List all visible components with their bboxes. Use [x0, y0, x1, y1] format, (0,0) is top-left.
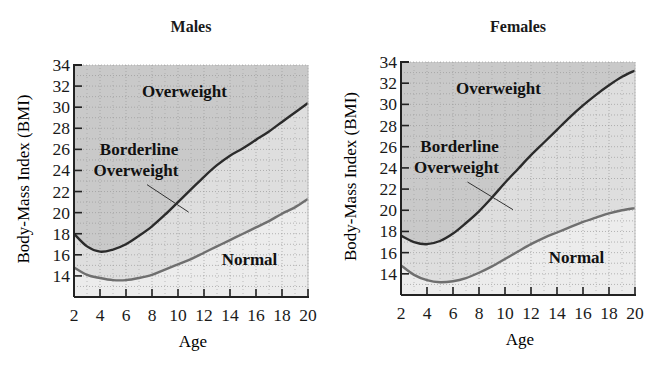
y-tick-label: 14 [53, 266, 71, 286]
x-tick-label: 18 [273, 305, 291, 325]
x-tick-label: 4 [423, 303, 432, 323]
y-tick-label: 18 [53, 224, 71, 244]
x-tick-label: 8 [475, 303, 484, 323]
y-tick-label: 30 [53, 97, 71, 117]
overweight-label: Overweight [456, 79, 541, 98]
y-tick-label: 18 [380, 221, 398, 241]
y-tick-label: 20 [53, 203, 71, 223]
y-axis-label: Body-Mass Index (BMI) [341, 92, 360, 261]
y-tick-label: 34 [53, 55, 71, 75]
x-axis-label: Age [506, 330, 534, 349]
x-tick-label: 12 [522, 303, 540, 323]
y-tick-label: 32 [53, 76, 71, 96]
x-tick-label: 2 [70, 305, 79, 325]
y-tick-label: 22 [380, 179, 398, 199]
y-tick-label: 20 [380, 200, 398, 220]
x-tick-label: 2 [397, 303, 406, 323]
borderline-label-line2: Overweight [94, 161, 179, 180]
x-tick-label: 16 [247, 305, 265, 325]
y-tick-label: 16 [380, 243, 398, 263]
females-chart-svg: 14161820222426283032342468101214161820Ag… [331, 0, 662, 366]
x-tick-label: 6 [449, 303, 458, 323]
x-tick-label: 6 [122, 305, 131, 325]
y-tick-label: 30 [380, 94, 398, 114]
y-tick-label: 24 [380, 158, 398, 178]
y-tick-label: 26 [380, 137, 398, 157]
y-tick-label: 24 [53, 160, 71, 180]
x-tick-label: 8 [148, 305, 157, 325]
males-chart-panel: Males 1416182022242628303234246810121416… [0, 0, 331, 366]
x-axis-label: Age [179, 332, 207, 351]
borderline-label-line1: Borderline [100, 140, 179, 159]
y-tick-label: 16 [53, 245, 71, 265]
y-tick-label: 34 [380, 52, 398, 72]
y-tick-label: 26 [53, 139, 71, 159]
y-tick-label: 28 [380, 116, 398, 136]
y-tick-label: 14 [380, 264, 398, 284]
females-chart-panel: Females 14161820222426283032342468101214… [331, 0, 662, 366]
normal-label: Normal [549, 248, 605, 267]
x-tick-label: 20 [299, 305, 317, 325]
x-tick-label: 14 [221, 305, 239, 325]
x-tick-label: 14 [548, 303, 566, 323]
x-tick-label: 10 [169, 305, 187, 325]
y-tick-label: 32 [380, 73, 398, 93]
borderline-label-line1: Borderline [420, 137, 499, 156]
y-tick-label: 22 [53, 182, 71, 202]
borderline-label-line2: Overweight [414, 158, 499, 177]
x-tick-label: 12 [195, 305, 213, 325]
x-tick-label: 18 [600, 303, 618, 323]
x-tick-label: 16 [574, 303, 592, 323]
normal-label: Normal [222, 250, 278, 269]
y-tick-label: 28 [53, 118, 71, 138]
x-tick-label: 20 [626, 303, 644, 323]
overweight-label: Overweight [142, 82, 227, 101]
x-tick-label: 4 [96, 305, 105, 325]
y-axis-label: Body-Mass Index (BMI) [14, 94, 33, 263]
males-chart-svg: 14161820222426283032342468101214161820Ag… [0, 0, 331, 366]
x-tick-label: 10 [496, 303, 514, 323]
